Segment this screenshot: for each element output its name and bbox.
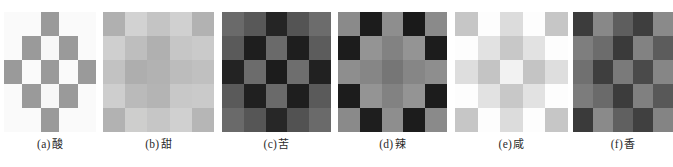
texture-cell — [573, 84, 593, 108]
texture-cell — [545, 108, 568, 132]
texture-cell — [633, 60, 653, 84]
texture-cell — [593, 60, 613, 84]
texture-cell — [425, 60, 447, 84]
texture-cell — [287, 60, 309, 84]
texture-cell — [593, 36, 613, 60]
caption-index: (a) — [37, 138, 51, 150]
caption-index: (b) — [145, 138, 159, 150]
panel-c-caption: (c)苦 — [222, 135, 331, 151]
texture-cell — [500, 36, 523, 60]
texture-cell — [266, 108, 288, 132]
texture-cell — [41, 36, 59, 60]
texture-cell — [523, 60, 546, 84]
texture-cell — [653, 108, 673, 132]
panel-c: (c)苦 — [222, 0, 331, 167]
texture-cell — [170, 84, 192, 108]
texture-cell — [613, 108, 633, 132]
texture-cell — [147, 60, 169, 84]
texture-cell — [287, 12, 309, 36]
texture-cell — [455, 36, 478, 60]
panel-b-texture-patch — [103, 12, 214, 132]
texture-cell — [425, 12, 447, 36]
texture-cell — [360, 36, 382, 60]
texture-cell — [78, 108, 96, 132]
texture-cell — [425, 84, 447, 108]
panel-e: (e)咸 — [455, 0, 568, 167]
texture-cell — [170, 60, 192, 84]
texture-cell — [338, 12, 360, 36]
panel-f-caption: (f)香 — [573, 135, 673, 151]
texture-cell — [478, 108, 501, 132]
texture-cell — [573, 60, 593, 84]
texture-cell — [22, 12, 40, 36]
texture-cell — [573, 12, 593, 36]
texture-cell — [523, 84, 546, 108]
panel-d: (d)辣 — [338, 0, 447, 167]
texture-cell — [360, 60, 382, 84]
texture-cell — [523, 12, 546, 36]
texture-cell — [4, 60, 22, 84]
texture-cell — [41, 84, 59, 108]
texture-cell — [266, 36, 288, 60]
texture-cell — [244, 108, 266, 132]
texture-cell — [192, 108, 214, 132]
texture-cell — [192, 60, 214, 84]
texture-cell — [545, 60, 568, 84]
texture-cell — [266, 60, 288, 84]
texture-cell — [147, 36, 169, 60]
texture-cell — [478, 84, 501, 108]
texture-cell — [59, 108, 77, 132]
texture-cell — [125, 84, 147, 108]
texture-cell — [41, 108, 59, 132]
texture-cell — [78, 12, 96, 36]
texture-cell — [222, 12, 244, 36]
texture-cell — [545, 84, 568, 108]
texture-cell — [22, 36, 40, 60]
texture-cell — [222, 108, 244, 132]
panel-f-texture-patch — [573, 12, 673, 132]
texture-cell — [103, 36, 125, 60]
texture-cell — [78, 36, 96, 60]
texture-cell — [613, 12, 633, 36]
panel-b-caption: (b)甜 — [103, 135, 214, 151]
texture-cell — [103, 60, 125, 84]
texture-cell — [192, 84, 214, 108]
texture-cell — [287, 84, 309, 108]
texture-cell — [244, 60, 266, 84]
texture-cell — [573, 108, 593, 132]
caption-word: 咸 — [513, 138, 524, 151]
texture-cell — [125, 36, 147, 60]
texture-cell — [478, 36, 501, 60]
texture-cell — [545, 36, 568, 60]
texture-cell — [338, 84, 360, 108]
panel-e-caption: (e)咸 — [455, 135, 568, 151]
texture-cell — [338, 60, 360, 84]
caption-index: (c) — [264, 138, 278, 150]
texture-cell — [4, 12, 22, 36]
texture-cell — [59, 36, 77, 60]
texture-cell — [478, 60, 501, 84]
texture-cell — [653, 12, 673, 36]
texture-cell — [4, 84, 22, 108]
texture-cell — [222, 84, 244, 108]
texture-cell — [147, 108, 169, 132]
texture-cell — [382, 36, 404, 60]
texture-cell — [59, 12, 77, 36]
texture-cell — [573, 36, 593, 60]
caption-index: (e) — [499, 138, 513, 150]
texture-cell — [125, 108, 147, 132]
caption-word: 甜 — [161, 138, 172, 151]
texture-cell — [125, 12, 147, 36]
texture-cell — [455, 12, 478, 36]
panel-d-caption: (d)辣 — [338, 135, 447, 151]
texture-cell — [593, 84, 613, 108]
texture-cell — [613, 60, 633, 84]
texture-cell — [545, 12, 568, 36]
panel-a-texture-patch — [4, 12, 96, 132]
texture-cell — [59, 84, 77, 108]
texture-cell — [382, 12, 404, 36]
texture-cell — [500, 60, 523, 84]
texture-cell — [78, 84, 96, 108]
texture-cell — [653, 36, 673, 60]
